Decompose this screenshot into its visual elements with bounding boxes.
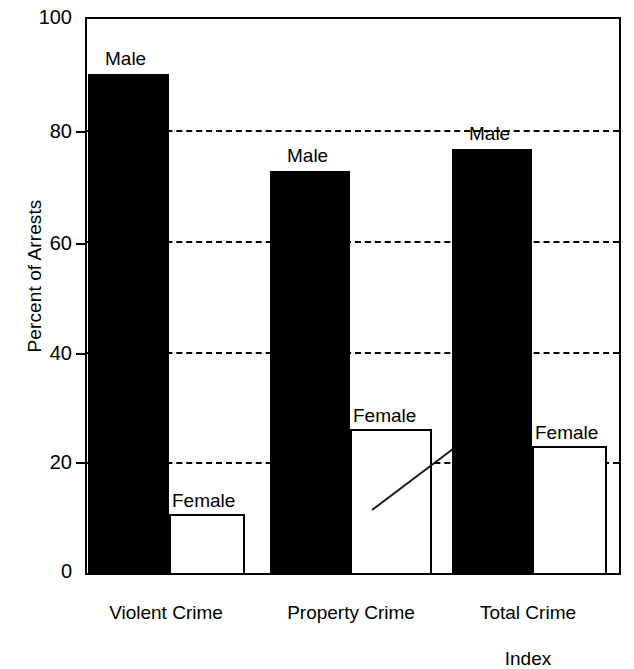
tick-mark-20-left: [76, 462, 85, 464]
x-label-property-crime: Property Crime: [266, 578, 436, 624]
bar-property-crime-female: [350, 429, 432, 573]
bar-label-property-crime-male: Male: [287, 146, 328, 165]
bar-label-total-crime-index-male: Male: [469, 124, 510, 143]
bar-label-property-crime-female: Female: [353, 406, 416, 425]
x-label-total-crime-index: Total Crime Index: [448, 578, 608, 669]
x-label-violent-crime: Violent Crime: [86, 578, 246, 624]
bar-label-violent-crime-female: Female: [172, 491, 235, 510]
y-tick-0: 0: [26, 561, 72, 581]
x-label-property-crime-line1: Property Crime: [287, 602, 415, 623]
bar-total-crime-index-female: [532, 446, 607, 573]
tick-mark-80-left: [76, 131, 85, 133]
bar-label-total-crime-index-female: Female: [535, 423, 598, 442]
y-tick-100: 100: [26, 7, 72, 27]
bar-total-crime-index-male: [452, 149, 532, 573]
y-tick-80: 80: [26, 121, 72, 141]
bar-label-violent-crime-male: Male: [105, 49, 146, 68]
y-tick-60: 60: [26, 233, 72, 253]
x-label-total-crime-index-line2: Index: [505, 648, 551, 669]
tick-mark-60-left: [76, 243, 85, 245]
plot-area: Male Female Male Female Male Female: [85, 17, 621, 575]
x-label-violent-crime-line1: Violent Crime: [109, 602, 223, 623]
bar-violent-crime-female: [169, 514, 245, 573]
bar-property-crime-male: [270, 171, 350, 573]
tick-mark-40-left: [76, 353, 85, 355]
bar-violent-crime-male: [88, 74, 169, 573]
y-tick-20: 20: [26, 452, 72, 472]
y-axis-tick-labels: 100 80 60 40 20 0: [0, 0, 72, 640]
x-label-total-crime-index-line1: Total Crime: [480, 602, 576, 623]
y-tick-40: 40: [26, 343, 72, 363]
